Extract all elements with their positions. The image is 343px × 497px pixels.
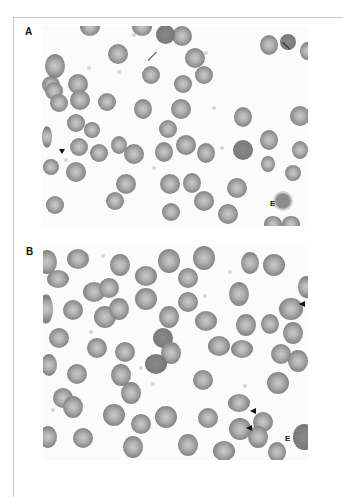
red-blood-cell [87,338,107,358]
red-blood-cell [108,44,128,64]
red-blood-cell [283,322,303,344]
red-blood-cell [218,204,238,224]
red-blood-cell [45,54,65,78]
red-blood-cell [142,66,160,84]
red-blood-cell [106,192,124,210]
red-blood-cell [234,107,252,127]
panel-label-b: B [26,246,33,257]
echinocyte-cell [293,424,308,450]
red-blood-cell [123,436,143,458]
red-blood-cell [267,372,289,394]
arrowhead-icon [246,425,252,431]
red-blood-cell [103,404,125,426]
red-blood-cell [213,441,235,460]
red-blood-cell [228,394,250,412]
red-blood-cell [46,196,64,214]
spherocyte-cell [233,140,253,160]
red-blood-cell [67,114,85,132]
red-blood-cell [236,314,256,336]
red-blood-cell [208,336,230,356]
red-blood-cell [185,48,205,68]
red-blood-cell [193,370,213,390]
red-blood-cell [155,406,177,428]
red-blood-cell [116,174,136,194]
red-blood-cell [73,428,93,448]
red-blood-cell [67,364,87,384]
red-blood-cell [176,135,196,155]
red-blood-cell [171,99,191,119]
red-blood-cell [131,414,151,434]
spherocyte-cell [156,26,175,44]
platelet [87,66,91,70]
red-blood-cell [282,216,300,226]
red-blood-cell [135,266,157,286]
red-blood-cell [260,130,278,150]
red-blood-cell [195,66,213,84]
red-blood-cell [63,300,83,320]
red-blood-cell [50,94,68,112]
red-blood-cell [84,122,100,138]
platelet [212,106,216,110]
red-blood-cell [63,396,83,418]
red-blood-cell [159,306,179,328]
red-blood-cell [264,216,282,226]
red-blood-cell [155,142,173,162]
red-blood-cell [158,249,180,273]
red-blood-cell [241,252,259,274]
red-blood-cell [292,141,308,159]
red-blood-cell [261,314,279,334]
platelet [151,382,155,386]
red-blood-cell [135,288,157,310]
red-blood-cell [162,203,180,221]
red-blood-cell [194,191,214,211]
red-blood-cell [159,120,177,138]
red-blood-cell [99,278,119,298]
red-blood-cell [178,268,198,288]
arrowhead-icon [299,301,305,307]
platelet [64,158,68,162]
red-blood-cell [298,276,308,298]
red-blood-cell [178,434,198,456]
red-blood-cell [195,311,217,331]
red-blood-cell [183,173,201,193]
red-blood-cell [197,143,215,163]
red-blood-cell [263,254,285,276]
echinocyte-label-b: E [285,434,290,443]
platelet [89,330,93,334]
echinocyte-cell [275,193,291,209]
red-blood-cell [174,75,192,93]
red-blood-cell [70,138,88,156]
red-blood-cell [115,342,135,362]
red-blood-cell [134,99,152,119]
red-blood-cell [178,292,198,312]
red-blood-cell [43,294,53,324]
red-blood-cell [261,156,275,172]
micrograph-panel-a [42,26,308,226]
panel-label-a: A [25,26,32,37]
platelet [101,254,105,258]
red-blood-cell [198,408,218,428]
red-blood-cell [172,26,192,46]
red-blood-cell [90,144,108,162]
red-blood-cell [231,340,253,358]
red-blood-cell [43,354,57,376]
platelet [132,33,136,37]
red-blood-cell [121,382,141,404]
platelet [220,146,224,150]
arrowhead-icon [250,408,256,414]
platelet [139,366,143,370]
red-blood-cell [290,106,308,126]
red-blood-cell [193,246,215,270]
arrowhead-icon [59,149,65,154]
red-blood-cell [260,35,278,55]
red-blood-cell [43,426,57,448]
red-blood-cell [160,174,180,194]
red-blood-cell [288,350,308,372]
red-blood-cell [268,442,286,460]
red-blood-cell [227,178,247,198]
platelet [228,270,232,274]
red-blood-cell [42,126,52,148]
red-blood-cell [67,249,89,269]
spherocyte-cell [145,354,167,374]
red-blood-cell [47,270,69,288]
